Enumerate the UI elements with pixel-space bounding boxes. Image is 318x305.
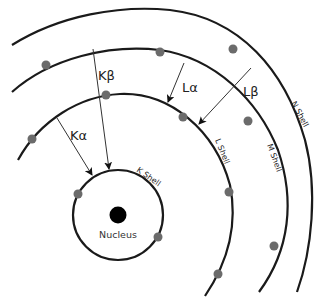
nucleus	[110, 207, 127, 224]
electron-m-1	[42, 61, 51, 70]
electron-m-4	[270, 242, 279, 251]
electron-l-2	[102, 91, 111, 100]
electron-l-4	[225, 188, 234, 197]
label-kb: Kβ	[98, 68, 115, 83]
electron-l-5	[214, 270, 223, 279]
label-nucleus: Nucleus	[99, 229, 137, 240]
label-la: Lα	[182, 80, 198, 95]
arrow-kb	[93, 49, 109, 169]
label-k-shell: K Shell	[135, 165, 163, 188]
electron-m-2	[156, 48, 165, 57]
arrow-ka	[57, 118, 92, 175]
electron-n-1	[229, 45, 238, 54]
electron-m-3	[244, 117, 253, 126]
label-ka: Kα	[70, 128, 87, 143]
label-lb: Lβ	[243, 84, 259, 99]
electron-l-3	[179, 113, 188, 122]
electron-k-2	[154, 233, 163, 242]
l-shell	[18, 94, 233, 296]
electron-k-1	[74, 190, 83, 199]
electron-l-1	[28, 135, 37, 144]
shell-diagram: Kα Kβ Lα Lβ K Shell L Shell M Shell N Sh…	[0, 0, 318, 305]
